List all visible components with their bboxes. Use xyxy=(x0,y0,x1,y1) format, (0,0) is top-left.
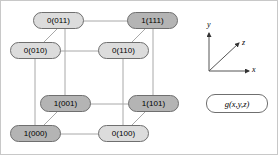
node-011[interactable]: 0(011) xyxy=(33,12,84,29)
node-110-label: 0(110) xyxy=(112,46,135,55)
node-100[interactable]: 0(100) xyxy=(98,125,149,142)
node-110[interactable]: 0(110) xyxy=(98,42,149,59)
node-000[interactable]: 1(000) xyxy=(10,125,61,142)
node-111[interactable]: 1(111) xyxy=(127,12,178,29)
axes-legend xyxy=(187,19,277,81)
axis-label-y: y xyxy=(207,20,211,29)
axis-label-x: x xyxy=(252,65,256,74)
axis-z-line xyxy=(209,43,239,71)
node-010[interactable]: 0(010) xyxy=(10,42,61,59)
node-010-label: 0(010) xyxy=(24,46,48,55)
node-100-label: 0(100) xyxy=(112,129,136,138)
function-label-box[interactable]: g(x,y,z) xyxy=(206,94,268,113)
node-101-label: 1(101) xyxy=(142,99,166,108)
axis-label-z: z xyxy=(242,38,245,47)
node-111-label: 1(111) xyxy=(141,16,164,25)
node-011-label: 0(011) xyxy=(47,16,70,25)
node-000-label: 1(000) xyxy=(24,129,48,138)
node-001[interactable]: 1(001) xyxy=(40,95,91,112)
cube-edge-group xyxy=(35,21,153,134)
cube-diagram-figure: 0(011) 1(111) 0(010) 0(110) 1(001) 1(101… xyxy=(0,0,278,155)
node-101[interactable]: 1(101) xyxy=(128,95,179,112)
function-label-text: g(x,y,z) xyxy=(225,99,250,109)
node-001-label: 1(001) xyxy=(54,99,78,108)
